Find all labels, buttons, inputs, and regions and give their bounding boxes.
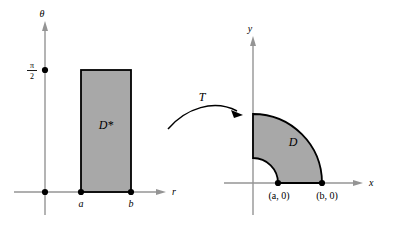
diagram-svg: θ r π 2 a b D* T <box>0 0 399 227</box>
tick-dot-pi-over-two <box>42 67 48 73</box>
x-axis-label: x <box>368 177 374 188</box>
tick-dot-origin <box>42 189 48 195</box>
x-axis-arrowhead <box>353 180 363 186</box>
theta-axis-arrowhead <box>42 21 48 31</box>
theta-axis-label: θ <box>40 8 45 19</box>
point-label-a-zero: (a, 0) <box>268 190 289 202</box>
transform-label-t: T <box>199 90 207 104</box>
pi-over-two-tick-label: π 2 <box>27 61 37 81</box>
region-quarter-annulus-d <box>253 114 322 183</box>
x-tick-label-b: b <box>129 198 134 209</box>
pi-over-two-denominator: 2 <box>30 72 34 81</box>
region-label-d: D <box>288 135 298 149</box>
figure-container: θ r π 2 a b D* T <box>0 0 399 227</box>
left-plot-group: θ r π 2 a b D* <box>14 8 176 215</box>
r-axis-arrowhead <box>156 189 166 195</box>
theta-axis <box>42 21 48 215</box>
y-axis-label: y <box>247 23 253 34</box>
point-label-b-zero: (b, 0) <box>316 190 338 202</box>
region-label-d-star: D* <box>98 118 114 132</box>
annulus-dot-b <box>319 180 325 186</box>
transform-arrow-curve <box>168 106 237 129</box>
rect-corner-dot-b <box>128 189 134 195</box>
r-axis-label: r <box>172 186 176 197</box>
transform-arrow-group: T <box>168 90 243 129</box>
rect-corner-dot-a <box>78 189 84 195</box>
x-tick-label-a: a <box>79 198 84 209</box>
right-plot-group: y x (a, 0) (b, 0) D <box>224 23 374 215</box>
y-axis-arrowhead <box>250 36 256 46</box>
pi-over-two-numerator: π <box>30 61 34 70</box>
annulus-dot-a <box>275 180 281 186</box>
transform-arrow-head <box>231 110 243 118</box>
